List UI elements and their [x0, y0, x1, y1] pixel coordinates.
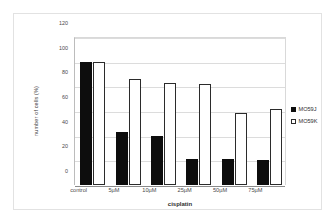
bar-MO59K-75µM — [270, 109, 282, 185]
plot-area — [74, 37, 286, 185]
bar-group — [257, 38, 282, 185]
bar-MO59J-10µM — [151, 136, 163, 185]
bar-MO59K-10µM — [164, 83, 176, 185]
legend-label: MO59J — [299, 107, 317, 113]
legend-entry: MO59K — [291, 119, 317, 125]
bar-group — [116, 38, 141, 185]
y-tick-label: 40 — [46, 120, 68, 125]
gridline-60 — [75, 112, 285, 113]
bar-MO59J-75µM — [257, 160, 269, 185]
figure-frame: number of cells (%) 020406080100120 cont… — [13, 13, 322, 210]
chart-legend: MO59JMO59K — [291, 107, 317, 130]
filled-square-marker — [291, 107, 296, 112]
y-tick-label: 60 — [46, 95, 68, 100]
gridline-40 — [75, 137, 285, 138]
y-tick-label: 80 — [46, 71, 68, 76]
open-square-marker — [291, 119, 296, 124]
gridline-120 — [75, 38, 285, 39]
y-tick-label: 0 — [46, 169, 68, 174]
bar-MO59J-50µM — [222, 159, 234, 185]
x-tick-label: 75µM — [232, 188, 278, 194]
y-axis-title: number of cells (%) — [33, 86, 39, 136]
chart-page: number of cells (%) 020406080100120 cont… — [0, 0, 336, 224]
gridline-80 — [75, 87, 285, 88]
gridline-20 — [75, 161, 285, 162]
y-tick-label: 120 — [46, 21, 68, 26]
bar-group — [222, 38, 247, 185]
bar-MO59J-5µM — [116, 132, 128, 185]
bar-group — [186, 38, 211, 185]
bar-MO59J-control — [80, 62, 92, 185]
gridline-100 — [75, 63, 285, 64]
bar-MO59K-50µM — [235, 113, 247, 185]
x-axis-title: cisplatin — [168, 201, 192, 207]
bar-group — [80, 38, 105, 185]
bar-group — [151, 38, 176, 185]
bar-MO59J-25µM — [186, 159, 198, 185]
bar-MO59K-control — [93, 62, 105, 185]
legend-label: MO59K — [299, 119, 318, 125]
y-tick-label: 100 — [46, 46, 68, 51]
y-tick-label: 20 — [46, 145, 68, 150]
bar-MO59K-25µM — [199, 84, 211, 185]
legend-entry: MO59J — [291, 107, 317, 113]
bar-MO59K-5µM — [129, 79, 141, 185]
